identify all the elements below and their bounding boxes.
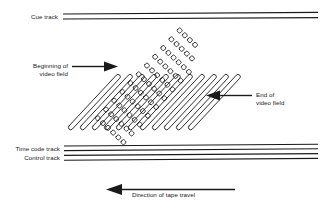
cue-track-label: Cue track [6, 13, 58, 21]
end-of-video-field-arrow [206, 91, 252, 101]
video-track [163, 73, 217, 130]
control-track-label: Control track [2, 154, 60, 162]
end-of-video-field-label-line1: End of [256, 91, 322, 99]
beginning-of-video-field-label-line1: Beginning of [6, 62, 68, 70]
beginning-of-video-field-label-line2: video field [6, 70, 68, 78]
direction-of-tape-travel-label: Direction of tape travel [132, 191, 252, 199]
video-track [67, 73, 121, 130]
control-track-lines [64, 154, 318, 161]
video-track [175, 73, 229, 130]
video-track [187, 73, 241, 130]
time-code-track-label: Time code track [2, 145, 60, 153]
time-code-track-lines [64, 144, 318, 150]
video-track [79, 73, 133, 130]
video-track-band [67, 73, 241, 130]
figure-canvas: Cue track Beginning of video field End o… [0, 0, 326, 209]
cue-track-lines [63, 12, 318, 19]
end-of-video-field-label-line2: video field [256, 99, 322, 107]
beginning-of-video-field-arrow [72, 62, 118, 72]
video-track [91, 73, 145, 130]
